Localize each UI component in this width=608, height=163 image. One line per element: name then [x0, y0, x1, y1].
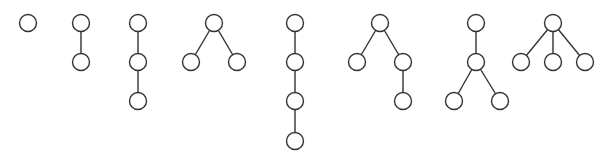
tree-7 [446, 15, 509, 110]
trees-diagram [0, 0, 608, 163]
tree-node [287, 93, 304, 110]
tree-node [468, 15, 485, 32]
tree-6 [349, 15, 412, 110]
tree-node [545, 15, 562, 32]
tree-node [545, 54, 562, 71]
tree-node [349, 54, 366, 71]
tree-node [446, 93, 463, 110]
tree-node [73, 54, 90, 71]
tree-1 [20, 15, 37, 32]
tree-node [287, 54, 304, 71]
tree-4 [183, 15, 246, 71]
tree-2 [73, 15, 90, 71]
tree-5 [287, 15, 304, 150]
tree-node [287, 15, 304, 32]
tree-node [183, 54, 200, 71]
tree-node [513, 54, 530, 71]
tree-node [287, 133, 304, 150]
tree-node [577, 54, 594, 71]
tree-node [492, 93, 509, 110]
tree-node [468, 54, 485, 71]
tree-node [130, 93, 147, 110]
tree-node [130, 15, 147, 32]
tree-node [130, 54, 147, 71]
tree-node [206, 15, 223, 32]
tree-3 [130, 15, 147, 110]
tree-node [73, 15, 90, 32]
tree-node [229, 54, 246, 71]
tree-8 [513, 15, 594, 71]
tree-node [372, 15, 389, 32]
tree-node [395, 54, 412, 71]
tree-node [395, 93, 412, 110]
tree-node [20, 15, 37, 32]
